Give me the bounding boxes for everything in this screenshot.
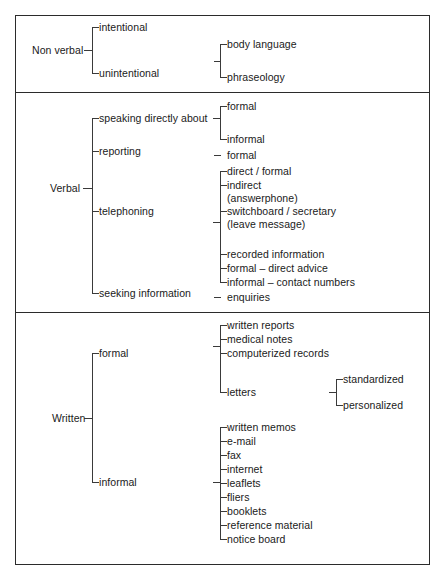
node-direct-formal: direct / formal bbox=[227, 165, 291, 177]
node-medical-notes: medical notes bbox=[227, 333, 292, 345]
node-written-informal: informal bbox=[99, 476, 137, 488]
connector-written-formal-sub-spine bbox=[220, 325, 221, 392]
node-speaking-formal: formal bbox=[227, 100, 256, 112]
connector-tick-letters-sub-stem bbox=[329, 392, 337, 393]
connector-tick-speaking-formal bbox=[220, 106, 227, 107]
connector-tick-fliers bbox=[220, 497, 227, 498]
node-body-language: body language bbox=[227, 38, 297, 50]
connector-tick-standardized bbox=[336, 379, 343, 380]
connector-tick-fax bbox=[220, 455, 227, 456]
node-speaking-informal: informal bbox=[227, 133, 265, 145]
node-personalized: personalized bbox=[343, 399, 403, 411]
connector-tick-speaking-directly-about bbox=[92, 118, 99, 119]
node-switchboard-secretary: switchboard / secretary bbox=[227, 205, 336, 217]
node-written-memos: written memos bbox=[227, 421, 296, 433]
node-leaflets: leaflets bbox=[227, 477, 261, 489]
connector-tick-reporting bbox=[92, 151, 99, 152]
connector-tick-phraseology bbox=[220, 77, 227, 78]
connector-telephoning-sub-spine bbox=[220, 171, 221, 282]
node-internet: internet bbox=[227, 463, 262, 475]
connector-written-stem bbox=[84, 418, 92, 419]
connector-tick-booklets bbox=[220, 511, 227, 512]
connector-tick-telephoning-stem bbox=[213, 222, 221, 223]
node-recorded-information: recorded information bbox=[227, 248, 324, 260]
connector-tick-indirect bbox=[220, 185, 227, 186]
connector-tick-intentional bbox=[92, 27, 99, 28]
node-written-reports: written reports bbox=[227, 319, 294, 331]
connector-speaking-sub-spine bbox=[220, 106, 221, 139]
connector-tick-seeking-information bbox=[92, 293, 99, 294]
connector-tick-speaking-sub-stem bbox=[213, 118, 221, 119]
connector-tick-switchboard bbox=[220, 211, 227, 212]
node-fax: fax bbox=[227, 449, 241, 461]
node-non-verbal: Non verbal bbox=[32, 44, 83, 56]
node-informal-contact-numbers: informal – contact numbers bbox=[227, 276, 355, 288]
node-e-mail: e-mail bbox=[227, 435, 256, 447]
connector-dash-enquiries bbox=[214, 297, 221, 298]
connector-written-spine bbox=[92, 353, 93, 482]
node-formal-direct-advice: formal – direct advice bbox=[227, 262, 328, 274]
connector-tick-telephoning bbox=[92, 211, 99, 212]
connector-tick-direct-formal bbox=[220, 171, 227, 172]
node-answerphone: (answerphone) bbox=[227, 192, 298, 204]
connector-verbal-stem bbox=[83, 188, 92, 189]
connector-tick-nonverbal-sub-stem bbox=[214, 61, 221, 62]
connector-tick-recorded-information bbox=[220, 254, 227, 255]
connector-tick-medical-notes bbox=[220, 339, 227, 340]
node-booklets: booklets bbox=[227, 505, 267, 517]
node-reference-material: reference material bbox=[227, 519, 313, 531]
connector-tick-written-informal bbox=[92, 482, 99, 483]
node-reporting-formal: formal bbox=[227, 149, 256, 161]
connector-tick-speaking-informal bbox=[220, 139, 227, 140]
connector-tick-e-mail bbox=[220, 441, 227, 442]
connector-tick-unintentional bbox=[92, 73, 99, 74]
node-intentional: intentional bbox=[99, 21, 147, 33]
connector-tick-written-memos bbox=[220, 427, 227, 428]
node-seeking-information: seeking information bbox=[99, 287, 191, 299]
connector-tick-leaflets bbox=[220, 483, 227, 484]
node-telephoning: telephoning bbox=[99, 205, 154, 217]
node-written-formal: formal bbox=[99, 347, 128, 359]
connector-dash-reporting-formal bbox=[214, 155, 221, 156]
node-enquiries: enquiries bbox=[227, 291, 270, 303]
connector-tick-reference-material bbox=[220, 525, 227, 526]
connector-tick-notice-board bbox=[220, 539, 227, 540]
node-computerized-records: computerized records bbox=[227, 347, 329, 359]
node-notice-board: notice board bbox=[227, 533, 285, 545]
connector-tick-informal-contact-numbers bbox=[220, 282, 227, 283]
connector-tick-written-formal-stem bbox=[213, 346, 221, 347]
connector-tick-body-language bbox=[220, 44, 227, 45]
node-leave-message: (leave message) bbox=[227, 218, 305, 230]
connector-tick-letters bbox=[220, 392, 227, 393]
connector-tick-computerized-records bbox=[220, 353, 227, 354]
node-unintentional: unintentional bbox=[99, 67, 159, 79]
node-verbal: Verbal bbox=[50, 182, 80, 194]
section-divider-1 bbox=[15, 92, 430, 93]
node-reporting: reporting bbox=[99, 145, 141, 157]
node-written: Written bbox=[52, 412, 85, 424]
connector-non-verbal-spine bbox=[92, 27, 93, 73]
connector-tick-personalized bbox=[336, 405, 343, 406]
connector-non-verbal-stem bbox=[84, 50, 92, 51]
connector-tick-internet bbox=[220, 469, 227, 470]
node-letters: letters bbox=[227, 386, 256, 398]
section-divider-2 bbox=[15, 312, 430, 313]
node-fliers: fliers bbox=[227, 491, 249, 503]
connector-tick-written-reports bbox=[220, 325, 227, 326]
connector-tick-written-formal bbox=[92, 353, 99, 354]
node-indirect: indirect bbox=[227, 179, 261, 191]
connector-verbal-spine bbox=[92, 118, 93, 293]
node-speaking-directly-about: speaking directly about bbox=[99, 112, 208, 124]
connector-tick-formal-direct-advice bbox=[220, 268, 227, 269]
node-standardized: standardized bbox=[343, 373, 404, 385]
classification-diagram: Non verbal intentional unintentional bod… bbox=[0, 0, 445, 580]
node-phraseology: phraseology bbox=[227, 71, 285, 83]
